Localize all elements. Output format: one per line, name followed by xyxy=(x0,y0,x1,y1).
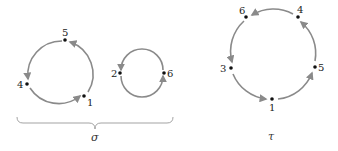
sigma-brace xyxy=(17,117,173,129)
tau-label: τ xyxy=(268,130,275,143)
arrow-6-to-2 xyxy=(121,49,163,70)
point-3 xyxy=(229,66,233,70)
permutation-diagram: 5 4 1 2 6 σ 6 4 3 5 1 τ xyxy=(0,0,338,151)
label-6: 6 xyxy=(239,5,245,16)
label-6: 6 xyxy=(167,68,173,79)
label-2: 2 xyxy=(111,68,117,79)
point-5 xyxy=(63,38,67,42)
label-3: 3 xyxy=(220,63,226,74)
sigma-cycle-2: 2 6 xyxy=(111,49,173,97)
label-5: 5 xyxy=(318,62,324,73)
label-4: 4 xyxy=(297,4,303,15)
label-1: 1 xyxy=(87,97,93,108)
point-2 xyxy=(118,71,122,75)
sigma-cycle-3: 5 4 1 xyxy=(17,27,93,108)
arrow-1-to-5 xyxy=(278,73,312,99)
arrow-2-to-6 xyxy=(121,76,163,97)
arrow-1-to-5 xyxy=(70,42,93,92)
arrow-5-to-4 xyxy=(28,41,62,79)
tau-cycle-5: 6 4 3 5 1 xyxy=(220,4,324,113)
point-4 xyxy=(25,82,29,86)
sigma-label: σ xyxy=(91,131,99,144)
label-4: 4 xyxy=(17,79,23,90)
point-6 xyxy=(162,71,166,75)
label-1: 1 xyxy=(269,102,275,113)
arrow-4-to-6 xyxy=(252,9,293,15)
arrow-3-to-1 xyxy=(233,74,266,99)
arrow-5-to-4 xyxy=(301,22,316,61)
point-1 xyxy=(270,97,274,101)
label-5: 5 xyxy=(62,27,68,38)
point-1 xyxy=(82,94,86,98)
arrow-6-to-3 xyxy=(231,21,244,62)
arrow-4-to-1 xyxy=(30,88,80,104)
point-5 xyxy=(313,65,317,69)
point-4 xyxy=(296,15,300,19)
